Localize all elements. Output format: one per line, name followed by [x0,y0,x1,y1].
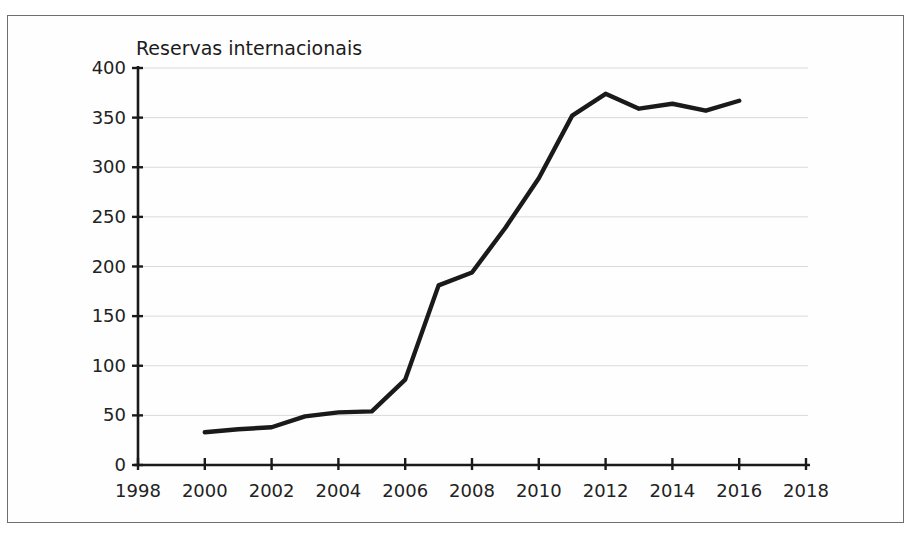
y-axis-label-400: 400 [64,59,126,77]
y-axis-label-200: 200 [64,258,126,276]
y-axis-label-300: 300 [64,158,126,176]
line-chart-plot [0,0,913,540]
chart-container: Reservas internacionais 0501001502002503… [0,0,913,540]
y-axis-label-350: 350 [64,109,126,127]
y-axis-label-150: 150 [64,307,126,325]
x-axis-label-2018: 2018 [766,482,846,500]
y-axis-label-250: 250 [64,208,126,226]
y-axis-label-100: 100 [64,357,126,375]
y-axis-label-0: 0 [64,456,126,474]
data-line-reservas-internacionais [205,94,739,432]
y-axis-label-50: 50 [64,406,126,424]
